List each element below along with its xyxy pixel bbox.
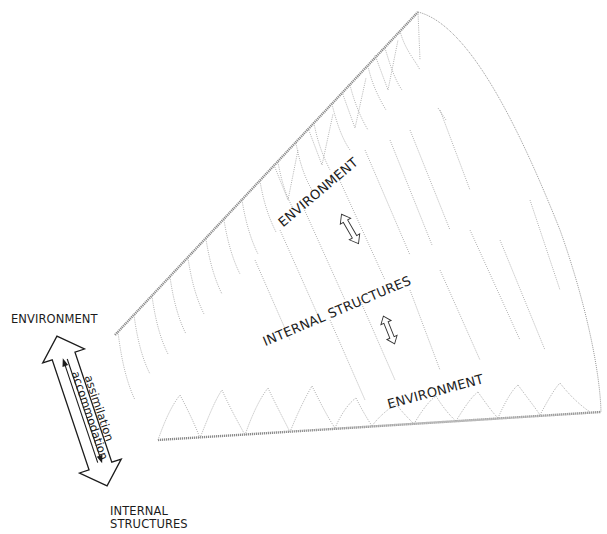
cone-texture [118,12,590,440]
side-environment-label: ENVIRONMENT [11,313,98,326]
side-structures-label-line2: STRUCTURES [110,518,188,531]
cone-bottom-edge [158,412,601,440]
cone-right-edge [418,12,601,412]
cone-shape [0,0,607,534]
side-internal-label-line1: INTERNAL [110,505,188,518]
diagram-canvas: ENVIRONMENT INTERNAL STRUCTURES ENVIRONM… [0,0,607,534]
lower-double-arrow-icon [378,314,399,346]
upper-double-arrow-icon [336,211,363,246]
side-internal-structures-label: INTERNAL STRUCTURES [110,505,188,531]
